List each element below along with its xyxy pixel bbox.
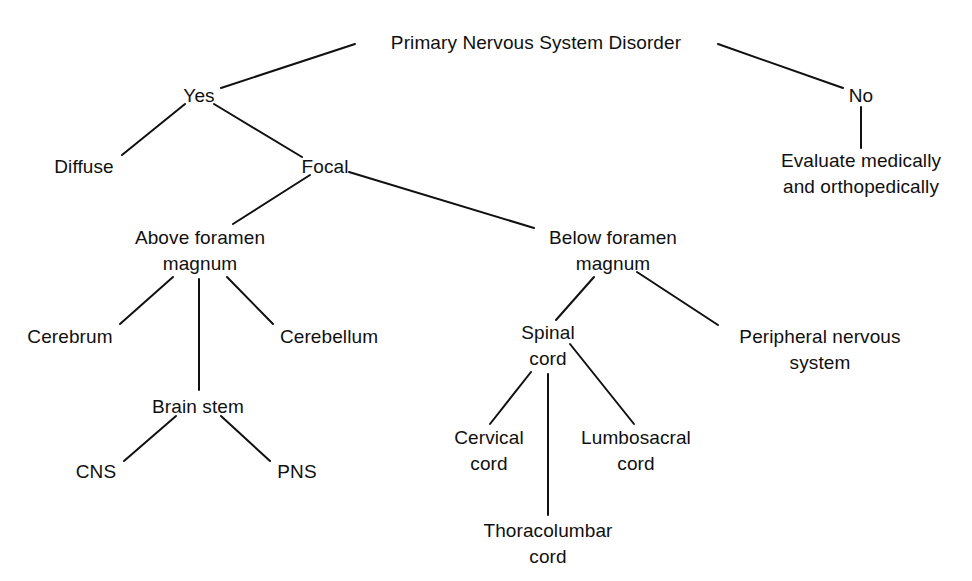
edge-yes-to-diffuse xyxy=(122,104,185,155)
node-yes: Yes xyxy=(183,83,214,109)
node-cns: CNS xyxy=(76,459,116,485)
node-above-foramen-line2: magnum xyxy=(135,251,265,277)
edge-brain_stem-to-cns xyxy=(124,416,176,461)
edge-above_foramen-to-cerebellum xyxy=(227,277,273,324)
node-thoracolumbar-cord: Thoracolumbar cord xyxy=(483,518,612,570)
node-no: No xyxy=(849,83,874,109)
node-evaluate-medically: Evaluate medically and orthopedically xyxy=(781,148,941,200)
node-cervical-cord: Cervical cord xyxy=(454,425,523,477)
edge-focal-to-below_foramen xyxy=(349,172,534,228)
node-root: Primary Nervous System Disorder xyxy=(391,30,681,56)
node-yes-label: Yes xyxy=(183,85,214,106)
node-pns-label: PNS xyxy=(277,461,316,482)
node-lumbosacral-cord-line2: cord xyxy=(581,451,691,477)
node-cerebrum-label: Cerebrum xyxy=(27,326,112,347)
edge-below_foramen-to-spinal_cord xyxy=(556,277,594,320)
node-peripheral-nervous-system-line2: system xyxy=(739,350,900,376)
node-root-label: Primary Nervous System Disorder xyxy=(391,32,681,53)
edge-above_foramen-to-cerebrum xyxy=(120,277,173,324)
edge-yes-to-focal xyxy=(214,104,302,157)
node-brain-stem-label: Brain stem xyxy=(152,396,244,417)
edge-root-to-no xyxy=(718,44,843,88)
node-peripheral-nervous-system-line1: Peripheral nervous xyxy=(739,326,900,347)
node-lumbosacral-cord: Lumbosacral cord xyxy=(581,425,691,477)
node-spinal-cord-line2: cord xyxy=(521,346,574,372)
node-diffuse-label: Diffuse xyxy=(54,156,114,177)
edge-spinal_cord-to-lumbosacral_cord xyxy=(570,344,634,424)
node-cervical-cord-line1: Cervical xyxy=(454,427,523,448)
node-diffuse: Diffuse xyxy=(54,154,114,180)
node-above-foramen-magnum: Above foramen magnum xyxy=(135,225,265,277)
node-cerebellum-label: Cerebellum xyxy=(280,326,378,347)
node-cns-label: CNS xyxy=(76,461,116,482)
node-no-label: No xyxy=(849,85,874,106)
node-focal-label: Focal xyxy=(302,156,349,177)
node-below-foramen-magnum: Below foramen magnum xyxy=(549,225,677,277)
edge-brain_stem-to-pns xyxy=(221,416,270,461)
decision-tree-diagram: Primary Nervous System Disorder Yes No D… xyxy=(0,0,972,581)
node-spinal-cord: Spinal cord xyxy=(521,320,574,372)
node-brain-stem: Brain stem xyxy=(152,394,244,420)
node-below-foramen-line1: Below foramen xyxy=(549,227,677,248)
edge-spinal_cord-to-cervical_cord xyxy=(490,372,531,424)
node-cervical-cord-line2: cord xyxy=(454,451,523,477)
node-lumbosacral-cord-line1: Lumbosacral xyxy=(581,427,691,448)
node-cerebellum: Cerebellum xyxy=(280,324,378,350)
node-above-foramen-line1: Above foramen xyxy=(135,227,265,248)
node-spinal-cord-line1: Spinal xyxy=(521,322,574,343)
edge-below_foramen-to-peripheral_nervous_system xyxy=(637,272,718,325)
node-cerebrum: Cerebrum xyxy=(27,324,112,350)
edge-focal-to-above_foramen xyxy=(233,175,310,224)
node-evaluate-line2: and orthopedically xyxy=(781,174,941,200)
node-focal: Focal xyxy=(302,154,349,180)
edge-layer xyxy=(0,0,972,581)
node-peripheral-nervous-system: Peripheral nervous system xyxy=(739,324,900,376)
node-below-foramen-line2: magnum xyxy=(549,251,677,277)
node-thoracolumbar-cord-line1: Thoracolumbar xyxy=(483,520,612,541)
edge-root-to-yes xyxy=(221,44,355,88)
node-evaluate-line1: Evaluate medically xyxy=(781,150,941,171)
node-thoracolumbar-cord-line2: cord xyxy=(483,544,612,570)
node-pns: PNS xyxy=(277,459,316,485)
